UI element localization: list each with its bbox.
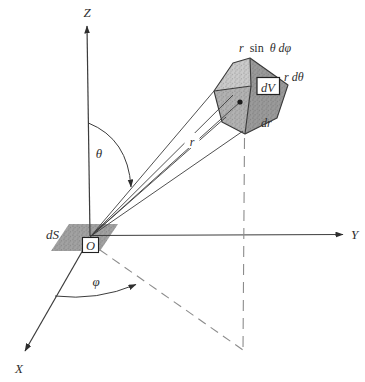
x-axis-label: X <box>14 361 24 376</box>
radial-edge-label: dr <box>261 116 272 130</box>
vertical-drop-dashed-line <box>243 138 245 350</box>
phi-angle-label: φ <box>92 274 99 289</box>
azimuthal-edge-rest: θ dφ <box>270 41 292 55</box>
volume-element-center-dot <box>237 99 242 104</box>
figure-svg: Z Y X θ φ r dS O dV r sin θ dφ r dθ dr <box>0 0 365 382</box>
y-axis <box>90 235 343 236</box>
origin-label: O <box>86 239 95 253</box>
r-line-2 <box>91 95 233 236</box>
z-axis <box>87 26 90 236</box>
labels-group: Z Y X θ φ r dS O dV r sin θ dφ r dθ dr <box>14 5 360 376</box>
projection-lines <box>100 138 245 350</box>
z-axis-label: Z <box>83 5 91 20</box>
polar-edge-label: r dθ <box>284 70 304 84</box>
box-stipple <box>214 58 288 134</box>
volume-element-label: dV <box>261 81 276 95</box>
theta-angle-arc <box>88 123 131 187</box>
radius-label: r <box>190 135 195 149</box>
x-axis <box>25 236 91 351</box>
spherical-coordinates-figure: Z Y X θ φ r dS O dV r sin θ dφ r dθ dr <box>0 0 365 382</box>
azimuthal-edge-r: r <box>239 41 244 55</box>
theta-angle-label: θ <box>96 146 103 161</box>
azimuthal-edge-label: r sin θ dφ <box>239 41 292 55</box>
surface-element-label: dS <box>46 227 60 242</box>
xy-projection-dashed-line <box>100 250 243 350</box>
r-line-4 <box>91 117 226 236</box>
y-axis-label: Y <box>351 227 360 242</box>
azimuthal-edge-sin: sin <box>250 41 264 55</box>
volume-element-box <box>214 58 288 134</box>
